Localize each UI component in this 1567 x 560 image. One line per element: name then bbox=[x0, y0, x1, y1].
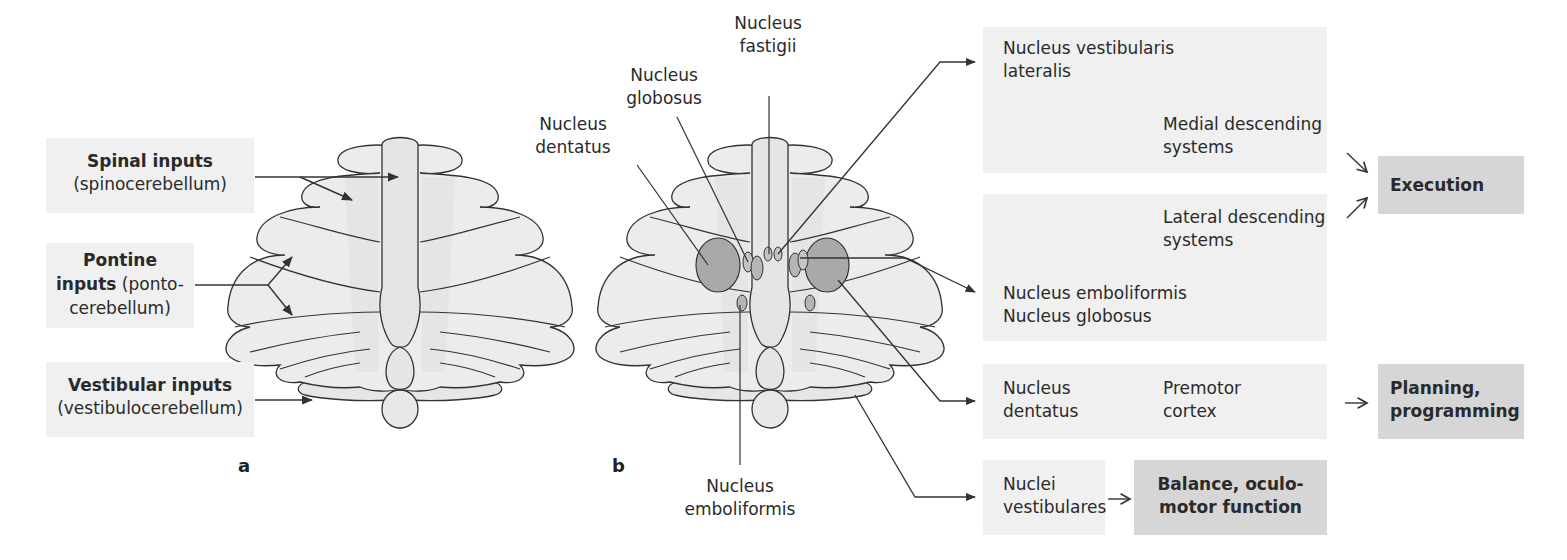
planning-box: Planning,programming bbox=[1378, 364, 1524, 439]
nuclei-vestibulares-label: Nucleivestibulares bbox=[1003, 473, 1106, 519]
dentate-box: Nucleusdentatus Premotorcortex bbox=[983, 364, 1327, 439]
cerebellum-a bbox=[226, 138, 574, 429]
pontine-inputs-line2: inputs (ponto- bbox=[46, 273, 194, 296]
execution-label: Execution bbox=[1390, 174, 1484, 197]
premotor-cortex-label: Premotorcortex bbox=[1163, 377, 1241, 423]
pontine-inputs-title: Pontine bbox=[46, 249, 194, 272]
vestibular-inputs-title: Vestibular inputs bbox=[46, 374, 254, 397]
medial-descending-label: Medial descendingsystems bbox=[1163, 113, 1322, 159]
balance-box: Balance, oculo-motor function bbox=[1134, 460, 1327, 535]
vestibular-inputs-box: Vestibular inputs (vestibulocerebellum) bbox=[46, 362, 254, 437]
dentatus-label: Nucleusdentatus bbox=[1003, 377, 1078, 423]
label-nucleus-fastigii: Nucleusfastigii bbox=[728, 12, 808, 58]
label-nucleus-emboliformis: Nucleusemboliformis bbox=[680, 475, 800, 521]
panel-letter-a: a bbox=[238, 455, 250, 476]
emboliformis-globosus-label: Nucleus emboliformisNucleus globosus bbox=[1003, 282, 1187, 328]
emboliform-globose-box: Lateral descendingsystems Nucleus emboli… bbox=[983, 194, 1327, 341]
planning-label: Planning,programming bbox=[1390, 377, 1520, 423]
spinal-inputs-title: Spinal inputs bbox=[46, 150, 254, 173]
vestibular-inputs-subtitle: (vestibulocerebellum) bbox=[46, 397, 254, 420]
vestibular-nuclei-box: Nucleivestibulares bbox=[983, 460, 1105, 535]
label-nucleus-globosus: Nucleusglobosus bbox=[624, 64, 704, 110]
spinal-inputs-box: Spinal inputs (spinocerebellum) bbox=[46, 138, 254, 213]
spinal-inputs-subtitle: (spinocerebellum) bbox=[46, 173, 254, 196]
lateral-descending-label: Lateral descendingsystems bbox=[1163, 206, 1325, 252]
panel-letter-b: b bbox=[612, 455, 625, 476]
pontine-inputs-line3: cerebellum) bbox=[46, 297, 194, 320]
execution-box: Execution bbox=[1378, 156, 1524, 214]
label-nucleus-dentatus: Nucleusdentatus bbox=[533, 113, 613, 159]
balance-label: Balance, oculo-motor function bbox=[1134, 473, 1327, 519]
vestibular-lateral-box: Nucleus vestibularislateralis Medial des… bbox=[983, 27, 1327, 173]
vestibularis-lateralis-label: Nucleus vestibularislateralis bbox=[1003, 37, 1174, 83]
pontine-inputs-box: Pontine inputs (ponto- cerebellum) bbox=[46, 243, 194, 328]
